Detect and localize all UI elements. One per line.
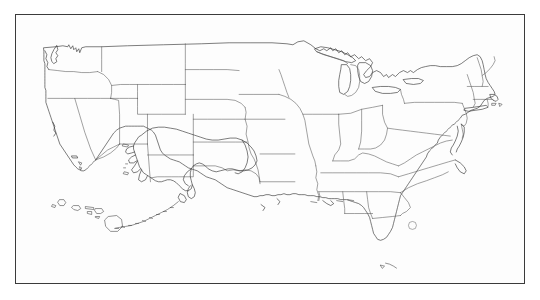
hawaii-lanai — [88, 212, 92, 215]
key-west — [381, 265, 385, 268]
gulf-coast-detail — [261, 199, 354, 211]
nantucket — [499, 103, 502, 106]
hawaii-big-island — [105, 216, 123, 232]
alaska-pribilof-islands — [124, 164, 128, 168]
channel-island-small — [80, 167, 82, 170]
state-borders-west — [48, 44, 193, 182]
lake-okeechobee — [408, 221, 416, 229]
border-il-in-ky — [333, 153, 399, 166]
northeast-coast-detail — [450, 94, 502, 173]
galveston-bay — [277, 199, 280, 205]
florida-keys — [386, 263, 397, 268]
border-ca-az — [96, 144, 120, 160]
outer-banks — [455, 160, 466, 174]
channel-islands — [72, 156, 78, 158]
state-borders-plains — [185, 70, 315, 184]
state-borders-northeast — [400, 57, 495, 138]
west-coast-detail — [45, 46, 82, 170]
border-tn-ms-al-ga — [319, 192, 401, 193]
border-nc-va — [398, 160, 455, 177]
border-ky-tn — [321, 173, 399, 177]
border-nm-tx — [151, 155, 193, 178]
border-wa-or — [49, 70, 98, 73]
border-nv-ut — [111, 98, 120, 144]
alaska-aleutian-chain — [115, 202, 179, 229]
contiguous-us-outline — [44, 41, 495, 241]
alaska-mainland — [134, 127, 258, 191]
border-or-id — [98, 72, 112, 99]
border-il-in — [333, 114, 341, 161]
alaska-cook-inlet — [183, 169, 191, 186]
border-sc-nc — [400, 172, 448, 193]
border-in-oh — [359, 109, 362, 149]
border-ga-fl — [373, 216, 401, 219]
border-mo-ky-tn-mississippi-river — [316, 166, 319, 201]
catalina-island — [79, 162, 82, 165]
alaska-nunivak-island — [124, 172, 129, 175]
hawaii-maui — [95, 209, 104, 214]
alaska-st-lawrence-island — [123, 144, 129, 147]
hawaii-oahu — [72, 206, 81, 211]
border-missouri-river-ne-ia — [245, 107, 260, 181]
lake-ontario — [403, 79, 423, 85]
border-pa-ny-west — [400, 89, 404, 103]
chesapeake-bay — [450, 126, 458, 155]
map-frame — [15, 14, 525, 284]
state-borders-midwest — [303, 105, 401, 200]
border-in-mi-oh — [339, 105, 383, 114]
florida-detail — [381, 221, 417, 268]
hawaii-kauai — [58, 200, 66, 206]
border-ms-al — [343, 192, 345, 214]
corpus-christi-bay — [261, 205, 265, 211]
alaska-inset — [115, 127, 257, 228]
puget-sound-detail — [51, 46, 58, 64]
border-wv-md-pa — [388, 128, 451, 136]
great-lakes — [315, 47, 424, 97]
washington-coast — [45, 51, 49, 70]
lake-erie — [373, 86, 401, 93]
border-al-ga — [367, 192, 373, 219]
contiguous-us-boundary — [44, 41, 495, 241]
michigan-upper-peninsula-border — [317, 52, 348, 64]
border-ny-vt-ma-ct — [467, 75, 475, 108]
mississippi-delta — [323, 201, 334, 206]
border-nd-sd — [185, 70, 239, 71]
alaska-kenai-peninsula — [187, 185, 195, 199]
border-sd-ne — [185, 99, 245, 107]
us-outline-map — [16, 15, 524, 283]
border-ia-wi-il — [279, 94, 316, 165]
alaska-southeast-panhandle — [235, 140, 248, 174]
hawaii-inset — [52, 200, 123, 232]
hawaii-molokai — [86, 207, 94, 210]
border-ga-sc — [400, 193, 410, 216]
marthas-vineyard — [492, 103, 496, 105]
border-nv-az — [96, 144, 120, 160]
border-va-wv-md — [398, 140, 452, 166]
alaska-kodiak-island — [178, 194, 186, 203]
screenshot-canvas — [0, 0, 540, 300]
long-island — [464, 105, 488, 111]
border-ca-nv — [75, 98, 96, 160]
alaska-west-coast-detail — [126, 146, 148, 182]
border-wy-ut-co — [138, 98, 186, 114]
hawaii-kahoolawe — [96, 216, 100, 218]
border-pa-ny — [404, 102, 462, 103]
border-ct-ri — [487, 99, 488, 106]
hawaii-niihau — [52, 205, 56, 208]
border-nh-me — [482, 57, 495, 76]
lake-michigan — [339, 65, 351, 95]
border-id-mt-wy — [112, 84, 138, 98]
border-mn-wi — [279, 70, 289, 98]
border-oh-wv-pa — [359, 105, 388, 149]
